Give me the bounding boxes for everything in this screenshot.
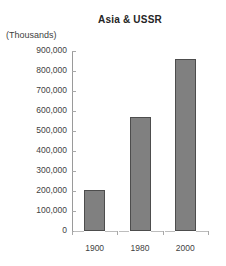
y-axis-line xyxy=(72,51,73,232)
x-axis-segment xyxy=(151,231,163,232)
x-axis-tick-label: 1900 xyxy=(75,243,115,253)
plot-area: 900,000800,000700,000600,000500,000400,0… xyxy=(72,51,208,231)
y-axis-tick-label: 0 xyxy=(62,225,67,235)
x-axis-tick-label: 1980 xyxy=(120,243,160,253)
x-axis-line xyxy=(72,231,208,232)
y-axis-tick-label: 400,000 xyxy=(36,145,67,155)
x-axis-segment xyxy=(105,231,117,232)
bar xyxy=(130,117,151,231)
x-axis-segment xyxy=(119,231,129,232)
x-axis-tick xyxy=(72,231,73,235)
y-axis-tick-label: 700,000 xyxy=(36,85,67,95)
chart-title: Asia & USSR xyxy=(60,14,200,25)
y-axis-tick-label: 100,000 xyxy=(36,205,67,215)
y-axis-tick-label: 900,000 xyxy=(36,45,67,55)
y-axis-tick-label: 500,000 xyxy=(36,125,67,135)
x-axis-segment xyxy=(74,231,84,232)
x-axis-tick-label: 2000 xyxy=(165,243,205,253)
y-axis-units-label: (Thousands) xyxy=(6,30,57,40)
y-axis-tick: 900,000 xyxy=(72,51,208,52)
x-axis-tick xyxy=(163,231,164,235)
bar xyxy=(84,190,105,231)
bar-chart: Asia & USSR (Thousands) 900,000800,00070… xyxy=(0,0,226,266)
y-axis-tick-label: 300,000 xyxy=(36,165,67,175)
x-axis-tick xyxy=(208,231,209,235)
x-axis-segment xyxy=(196,231,208,232)
y-axis-tick-label: 800,000 xyxy=(36,65,67,75)
bar xyxy=(175,59,196,231)
x-axis-segment xyxy=(165,231,175,232)
y-axis-tick-label: 200,000 xyxy=(36,185,67,195)
y-axis-tick-label: 600,000 xyxy=(36,105,67,115)
x-axis-tick xyxy=(117,231,118,235)
